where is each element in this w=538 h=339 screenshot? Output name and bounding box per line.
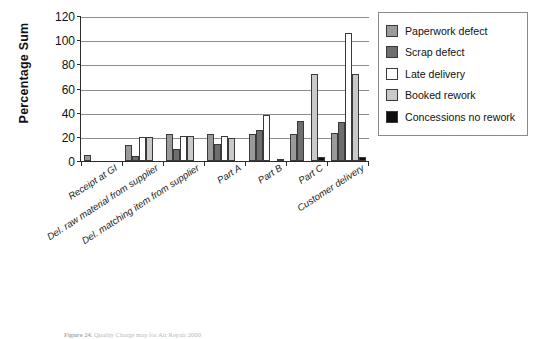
bar [84, 155, 91, 161]
bar [352, 74, 359, 161]
bar [214, 144, 221, 161]
x-axis-tick-mark [245, 161, 246, 166]
bar-groups [81, 17, 369, 161]
bar-group [122, 17, 163, 161]
x-axis-tick-label: Part A [214, 162, 242, 186]
legend-item[interactable]: Late delivery [386, 63, 521, 85]
legend-item[interactable]: Concessions no rework [386, 106, 521, 128]
caption-text: Quality Charge map for Air Repair 2000 [94, 331, 201, 338]
bar [318, 157, 325, 161]
plot-area: 120100806040200 [80, 17, 369, 162]
legend-item[interactable]: Scrap defect [386, 42, 521, 64]
bar [290, 134, 297, 161]
x-axis-tick-mark [286, 161, 287, 166]
legend-swatch [386, 89, 398, 101]
bar [221, 136, 228, 161]
legend-item[interactable]: Paperwork defect [386, 20, 521, 42]
chart-figure: Percentage Sum 120100806040200 Receipt a… [0, 0, 538, 339]
y-axis-tick-label: 100 [55, 34, 81, 48]
bar-group [287, 17, 328, 161]
x-axis-tick-label: Part C [296, 162, 325, 186]
legend-label: Concessions no rework [405, 111, 515, 123]
bar [311, 74, 318, 161]
x-axis-tick-mark [163, 161, 164, 166]
bar [297, 121, 304, 161]
x-axis-tick-mark [368, 161, 369, 166]
bar-group [328, 17, 369, 161]
legend-item[interactable]: Booked rework [386, 85, 521, 107]
legend: Paperwork defectScrap defectLate deliver… [378, 12, 528, 136]
y-axis-tick-label: 40 [62, 107, 81, 121]
legend-swatch [386, 46, 398, 58]
bar [180, 136, 187, 161]
y-axis-tick-label: 20 [62, 131, 81, 145]
x-axis-tick-mark [122, 161, 123, 166]
y-axis-title: Percentage Sum [17, 3, 31, 143]
x-axis-tick-mark [327, 161, 328, 166]
bar [146, 137, 153, 161]
bar [132, 156, 139, 161]
legend-swatch [386, 25, 398, 37]
bar [256, 130, 263, 161]
bar [263, 115, 270, 161]
legend-label: Booked rework [405, 89, 476, 101]
legend-label: Paperwork defect [405, 25, 487, 37]
y-axis-tick-label: 60 [62, 83, 81, 97]
bar [173, 149, 180, 161]
y-axis-tick-label: 80 [62, 58, 81, 72]
bar [228, 138, 235, 161]
figure-caption: Figure 24. Quality Charge map for Air Re… [64, 331, 201, 338]
bar [207, 134, 214, 161]
legend-swatch [386, 68, 398, 80]
legend-swatch [386, 111, 398, 123]
bar-group [246, 17, 287, 161]
bar [331, 133, 338, 161]
bar [187, 136, 194, 161]
bar-group [81, 17, 122, 161]
legend-label: Late delivery [405, 68, 465, 80]
bar [125, 145, 132, 161]
bar [338, 122, 345, 161]
bar [166, 134, 173, 161]
bar [139, 137, 146, 161]
bar-group [163, 17, 204, 161]
bar [359, 157, 366, 161]
bar-group [204, 17, 245, 161]
x-axis-tick-mark [204, 161, 205, 166]
y-axis-tick-label: 0 [68, 155, 81, 169]
bar [249, 134, 256, 161]
caption-number: Figure 24. [64, 331, 92, 338]
bar [345, 33, 352, 161]
legend-label: Scrap defect [405, 46, 464, 58]
x-axis-tick-mark [81, 161, 82, 166]
x-axis-tick-label: Part B [255, 162, 283, 186]
y-axis-tick-label: 120 [55, 10, 81, 24]
